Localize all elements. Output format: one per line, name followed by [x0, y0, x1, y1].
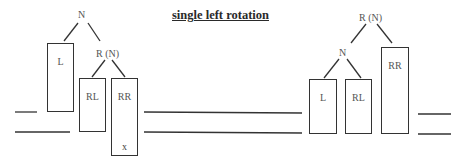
- edge-r-rr: [112, 60, 125, 77]
- edge-n-l: [64, 23, 78, 41]
- edge-r-n: [351, 24, 366, 43]
- edge-n-rl-after: [347, 59, 361, 78]
- after-child-label: N: [339, 47, 346, 58]
- before-child-label: R (N): [96, 48, 119, 59]
- before-subtree-l: L: [47, 43, 74, 112]
- subtree-label: RR: [112, 91, 137, 102]
- after-subtree-rr: RR: [381, 47, 409, 134]
- edge-r-rl: [92, 60, 105, 77]
- after-subtree-rl: RL: [345, 79, 372, 134]
- after-subtree-l: L: [309, 79, 337, 134]
- subtree-label: RL: [80, 91, 105, 102]
- after-root-label: R (N): [359, 12, 382, 23]
- inserted-node-label: x: [112, 141, 137, 152]
- subtree-label: L: [48, 56, 73, 67]
- level-line-middle-lower: [144, 132, 302, 133]
- edge-n-l-after: [324, 59, 339, 78]
- before-root-label: N: [78, 9, 85, 20]
- before-subtree-rr: RR x: [111, 78, 138, 156]
- edge-n-r: [88, 23, 100, 41]
- edge-r-rr-after: [377, 24, 392, 43]
- before-subtree-rl: RL: [79, 78, 106, 132]
- diagram-title: single left rotation: [172, 8, 269, 23]
- level-line-middle-upper: [144, 112, 302, 113]
- subtree-label: RL: [346, 92, 371, 103]
- subtree-label: L: [310, 92, 336, 103]
- subtree-label: RR: [382, 60, 408, 71]
